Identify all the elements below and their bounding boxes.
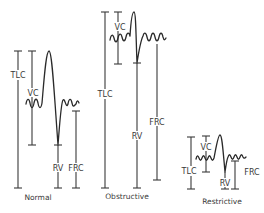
panel-caption-obstructive: Obstructive (105, 192, 149, 201)
vc-bar (202, 136, 210, 172)
frc-label: FRC (149, 118, 165, 127)
frc-bar (231, 161, 239, 189)
vc-label: VC (200, 143, 211, 152)
frc-bar (72, 111, 80, 188)
panel-obstructive: TLC VC RV FRC Obstructive (95, 12, 167, 201)
rv-bar (133, 63, 141, 188)
rv-label: RV (220, 179, 231, 188)
vc-bar (28, 51, 36, 145)
panel-restrictive: TLC VC RV FRC Restrictive (180, 135, 260, 206)
vc-label: VC (27, 89, 38, 98)
tlc-bar (101, 12, 109, 188)
tlc-label: TLC (181, 167, 197, 176)
spirometry-trace (196, 135, 246, 172)
spirometry-trace (26, 51, 79, 145)
panel-normal: TLC VC RV FRC Normal (9, 51, 86, 202)
panel-caption-normal: Normal (24, 193, 51, 202)
rv-label: RV (132, 132, 143, 141)
lung-volume-diagram: TLC VC RV FRC Normal (0, 0, 264, 213)
tlc-label: TLC (97, 90, 113, 99)
tlc-bar (187, 137, 195, 189)
vc-label: VC (114, 23, 125, 32)
frc-label: FRC (244, 168, 260, 177)
frc-label: FRC (68, 164, 84, 173)
frc-bar (153, 44, 161, 180)
panel-caption-restrictive: Restrictive (202, 197, 242, 206)
rv-label: RV (53, 164, 64, 173)
tlc-label: TLC (10, 71, 26, 80)
